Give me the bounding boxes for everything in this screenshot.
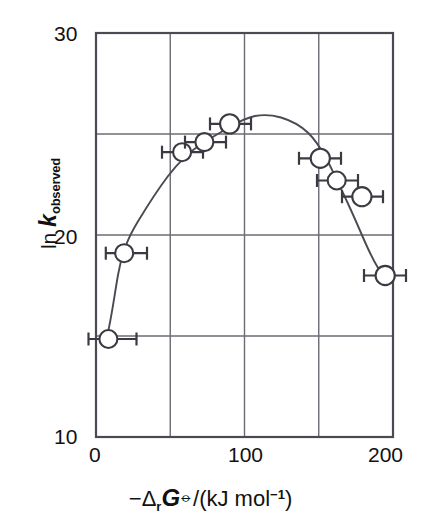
x-tick-label-0: 0 — [89, 443, 101, 467]
x-axis-minus-sign: − — [129, 486, 142, 511]
marker-open-circle — [173, 143, 191, 161]
data-points — [89, 114, 407, 348]
marker-open-circle — [328, 172, 346, 190]
data-point — [106, 244, 147, 262]
data-point — [317, 172, 358, 190]
x-axis-delta-subscript: r — [156, 499, 161, 514]
x-axis-units-close-paren: ) — [285, 486, 292, 511]
data-point — [364, 266, 406, 285]
y-axis-title-subscript: observed — [48, 158, 63, 214]
x-axis-units-exponent: −1 — [270, 487, 285, 502]
marker-open-circle — [99, 330, 117, 348]
x-tick-label-200: 200 — [368, 443, 403, 467]
marker-open-circle — [311, 149, 330, 168]
x-axis-units: /(kJ mol — [193, 486, 270, 511]
marker-open-circle — [376, 266, 395, 285]
y-axis-title-prefix: ln — [37, 227, 60, 249]
y-axis-title: ln kobserved — [35, 134, 62, 274]
x-tick-label-100: 100 — [228, 443, 263, 467]
y-axis-title-symbol: k — [35, 214, 61, 227]
y-tick-label-10: 10 — [54, 425, 77, 449]
y-tick-label-30: 30 — [54, 22, 77, 46]
data-point — [299, 149, 341, 168]
marker-open-circle — [220, 114, 239, 133]
chart-figure: 30 20 10 0 100 200 ln kobserved −ΔrG⦵/(k… — [0, 0, 421, 527]
marker-open-circle — [195, 133, 213, 151]
x-axis-title: −ΔrG⦵/(kJ mol−1) — [0, 484, 421, 512]
x-axis-delta-symbol: Δ — [142, 486, 157, 511]
marker-open-circle — [115, 244, 133, 262]
x-axis-standard-state-icon: ⦵ — [180, 488, 193, 505]
marker-open-circle — [352, 187, 371, 206]
x-axis-gibbs-symbol: G — [161, 484, 180, 511]
